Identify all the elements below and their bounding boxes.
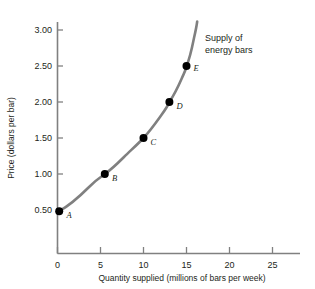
y-tick-label-3-00: 3.00: [34, 25, 52, 35]
x-axis-tick-labels: 0 5 10 15 20 25: [55, 260, 278, 270]
y-tick-label-1-00: 1.00: [34, 169, 52, 179]
supply-curve-label-line1: Supply of: [205, 33, 243, 43]
x-tick-label-15: 15: [181, 260, 191, 270]
data-point-label-b: B: [112, 173, 117, 183]
x-tick-label-20: 20: [224, 260, 234, 270]
x-tick-label-5: 5: [98, 260, 103, 270]
chart-canvas: 3.00 2.50 2.00 1.50 1.00 0.50 0 5 10 15 …: [0, 0, 315, 289]
y-axis-tick-labels: 3.00 2.50 2.00 1.50 1.00 0.50: [34, 25, 52, 215]
y-tick-label-0-50: 0.50: [34, 205, 52, 215]
data-point-label-c: C: [151, 137, 157, 147]
x-tick-label-25: 25: [267, 260, 277, 270]
data-point-label-d: D: [176, 101, 184, 111]
axes: [58, 22, 301, 254]
x-axis-title: Quantity supplied (millions of bars per …: [98, 273, 265, 283]
data-point-label-e: E: [193, 63, 200, 73]
data-point-b: [101, 170, 109, 178]
y-tick-label-1-50: 1.50: [34, 133, 52, 143]
data-point-e: [183, 62, 191, 70]
x-tick-label-0: 0: [55, 260, 60, 270]
data-point-d: [165, 98, 173, 106]
data-point-c: [140, 134, 148, 142]
supply-curve-figure: 3.00 2.50 2.00 1.50 1.00 0.50 0 5 10 15 …: [0, 0, 315, 289]
supply-curve-label-line2: energy bars: [205, 45, 253, 55]
x-axis-ticks: [58, 247, 273, 254]
data-point-label-a: A: [66, 210, 73, 220]
data-point-a: [55, 207, 63, 215]
x-tick-label-10: 10: [138, 260, 148, 270]
data-points: [55, 62, 190, 215]
y-axis-title: Price (dollars per bar): [6, 97, 16, 179]
supply-curve-line: [59, 22, 197, 212]
y-tick-label-2-00: 2.00: [34, 97, 52, 107]
supply-curve-annotation: Supply of energy bars: [205, 33, 253, 55]
y-tick-label-2-50: 2.50: [34, 61, 52, 71]
y-axis-ticks: [58, 30, 64, 210]
